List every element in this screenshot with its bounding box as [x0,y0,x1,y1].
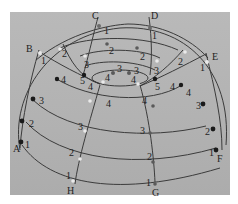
label-c: C [92,11,99,21]
node-label: 2 [140,52,145,62]
node-label: 2 [29,119,34,129]
ring-3 [33,100,206,133]
node-label: 4 [186,88,191,98]
node-label: 2 [205,127,210,137]
node-label: 1 [209,148,214,158]
node-label: 3 [39,96,44,106]
ring-2 [26,122,216,160]
node-label: 3 [196,101,201,111]
node-label: 3 [117,64,122,74]
node-label: 4 [131,75,136,85]
node-label: 4 [170,82,175,92]
ring-bottom [22,145,220,184]
node-label: 1 [146,178,151,188]
node-label: 3 [78,122,83,132]
node-label: 2 [147,152,152,162]
node-label: 1 [104,26,109,36]
node-label: 1 [25,140,30,150]
label-h: H [67,186,74,196]
node-label: 3 [140,126,145,136]
node-label: 3 [154,66,159,76]
node-label: 3 [84,60,89,70]
label-a: A [13,144,20,154]
ring-4 [55,78,182,98]
node-label: 4 [61,75,66,85]
figure-caption-faint [80,196,230,203]
node-label: 5 [155,82,160,92]
label-f: F [217,154,223,164]
label-e: E [212,52,218,62]
node-label: 5 [80,76,85,86]
node-label: 4 [105,73,110,83]
label-b: B [26,44,33,54]
node-label: 2 [69,148,74,158]
node-label: 4 [106,99,111,109]
node-label: 2 [62,49,67,59]
label-d: D [151,11,158,21]
node-label: 2 [178,57,183,67]
node-label: 4 [88,82,93,92]
node-label: 1 [200,63,205,73]
node-label: 1 [66,171,71,181]
node-label: 1 [41,56,46,66]
node-label: 1 [152,31,157,41]
node-label: 2 [109,46,114,56]
dome-wireframe [0,0,238,204]
node-label: 4 [142,96,147,106]
